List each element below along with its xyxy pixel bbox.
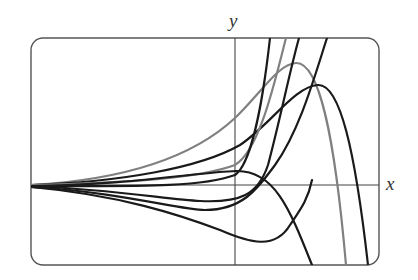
x-axis-label: x [386, 173, 394, 195]
y-axis-label: y [229, 10, 237, 32]
curve-family [31, 38, 368, 265]
plot-frame [31, 38, 379, 265]
function-family-plot [0, 0, 418, 280]
